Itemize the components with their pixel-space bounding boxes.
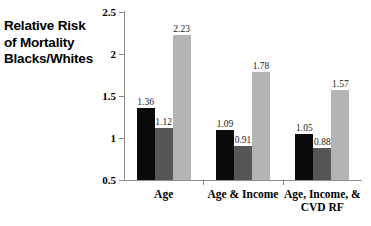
y-axis-tick-label: 2	[90, 48, 116, 60]
x-axis-tick-mark	[283, 180, 284, 185]
y-axis-tick-label: 0.5	[90, 174, 116, 186]
bar-value-label: 0.88	[307, 137, 337, 147]
bar-value-label: 1.78	[246, 61, 276, 71]
bar-value-label: 1.36	[131, 97, 161, 107]
x-axis-category-label: Age, Income, &CVD RF	[275, 188, 370, 214]
bar	[331, 90, 349, 180]
y-axis-tick-label: 2.5	[90, 6, 116, 18]
bar-chart-figure: Relative Risk of Mortality Blacks/Whites…	[0, 0, 371, 226]
y-axis-title-line-2: of Mortality	[4, 35, 100, 52]
x-axis-line	[124, 180, 362, 181]
bar-value-label: 1.09	[210, 119, 240, 129]
bar-value-label: 1.57	[325, 79, 355, 89]
bar	[313, 148, 331, 180]
x-axis-category-label-line: Age, Income, &	[275, 188, 370, 201]
y-axis-title-line-3: Blacks/Whites	[4, 51, 100, 68]
bar-value-label: 0.91	[228, 135, 258, 145]
bar-value-label: 2.23	[167, 24, 197, 34]
y-axis-tick-mark	[119, 180, 124, 181]
y-axis-tick-label: 1.5	[90, 90, 116, 102]
x-axis-tick-mark	[203, 180, 204, 185]
x-axis-category-label-line: CVD RF	[275, 201, 370, 214]
bar	[173, 35, 191, 180]
y-axis-title: Relative Risk of Mortality Blacks/Whites	[4, 18, 100, 68]
y-axis-title-line-1: Relative Risk	[4, 18, 100, 35]
y-axis-tick-label: 1	[90, 132, 116, 144]
bar	[252, 72, 270, 180]
bar	[155, 128, 173, 180]
bar-value-label: 1.05	[289, 123, 319, 133]
bar	[234, 146, 252, 180]
bar-value-label: 1.12	[149, 117, 179, 127]
